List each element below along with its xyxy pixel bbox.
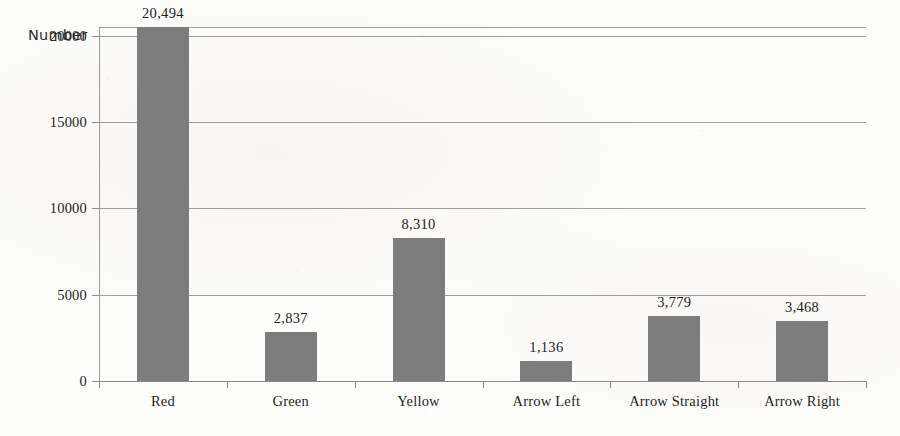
bar-value-label-yellow: 8,310 bbox=[402, 216, 436, 233]
x-tick-label-green: Green bbox=[273, 393, 309, 410]
x-tick-label-arrow-straight: Arrow Straight bbox=[629, 393, 719, 410]
y-tick-label-15000: 15000 bbox=[50, 113, 87, 130]
x-axis-separator-1 bbox=[227, 381, 228, 388]
plot-area: 05000100001500020000 20,4942,8378,3101,1… bbox=[99, 27, 866, 381]
y-axis-line bbox=[99, 27, 100, 381]
y-tick-mark-15000 bbox=[92, 122, 99, 123]
x-axis-separator-5 bbox=[738, 381, 739, 388]
x-axis-endcap-0 bbox=[99, 381, 100, 388]
x-tick-label-red: Red bbox=[151, 393, 175, 410]
x-axis-separator-3 bbox=[483, 381, 484, 388]
bar-chart: Number 05000100001500020000 20,4942,8378… bbox=[0, 0, 900, 436]
y-tick-mark-10000 bbox=[92, 208, 99, 209]
y-tick-mark-0 bbox=[92, 381, 99, 382]
bar-arrow-straight bbox=[648, 316, 700, 381]
x-axis-separator-4 bbox=[610, 381, 611, 388]
x-axis-endcap-1 bbox=[866, 381, 867, 388]
y-tick-label-0: 0 bbox=[80, 373, 87, 390]
plot-top-border bbox=[99, 27, 866, 28]
y-tick-mark-20000 bbox=[92, 36, 99, 37]
bar-value-label-arrow-right: 3,468 bbox=[785, 299, 819, 316]
bar-value-label-arrow-straight: 3,779 bbox=[657, 294, 691, 311]
x-tick-label-yellow: Yellow bbox=[397, 393, 439, 410]
y-tick-label-5000: 5000 bbox=[57, 286, 87, 303]
gridline-15000 bbox=[99, 122, 866, 123]
bar-value-label-red: 20,494 bbox=[142, 5, 184, 22]
gridline-5000 bbox=[99, 295, 866, 296]
bar-value-label-arrow-left: 1,136 bbox=[529, 339, 563, 356]
gridline-20000 bbox=[99, 36, 866, 37]
y-tick-label-20000: 20000 bbox=[50, 27, 87, 44]
x-axis-separator-2 bbox=[355, 381, 356, 388]
y-tick-label-10000: 10000 bbox=[50, 200, 87, 217]
gridline-10000 bbox=[99, 208, 866, 209]
bar-arrow-left bbox=[520, 361, 572, 381]
bar-arrow-right bbox=[776, 321, 828, 381]
bar-red bbox=[137, 27, 189, 381]
x-tick-label-arrow-right: Arrow Right bbox=[764, 393, 840, 410]
y-tick-mark-5000 bbox=[92, 295, 99, 296]
bar-value-label-green: 2,837 bbox=[274, 310, 308, 327]
bar-green bbox=[265, 332, 317, 381]
bar-yellow bbox=[393, 238, 445, 381]
x-tick-label-arrow-left: Arrow Left bbox=[513, 393, 581, 410]
